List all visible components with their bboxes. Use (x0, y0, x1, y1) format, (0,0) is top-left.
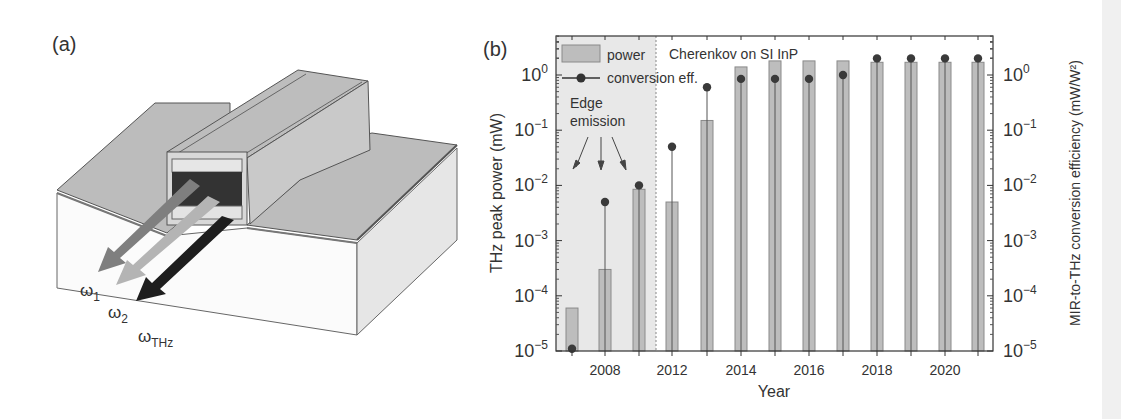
y-tick-label: 100 (521, 62, 548, 85)
y-tick-label: 10−4 (1003, 283, 1037, 306)
legend-conversion-label: conversion eff. (607, 70, 698, 86)
x-tick-label: 2008 (589, 362, 620, 378)
conversion-dot (805, 75, 813, 83)
conversion-dot (668, 143, 676, 151)
y-tick-label: 10−2 (514, 172, 548, 195)
cherenkov-annotation: Cherenkov on SI InP (669, 46, 798, 62)
edge-annotation-line1: Edge (570, 95, 603, 111)
conversion-dot (941, 54, 949, 62)
y-tick-label: 10−5 (514, 338, 548, 361)
y-tick-label: 100 (1003, 62, 1030, 85)
legend-power-label: power (607, 47, 645, 63)
y-axis-title-right: MIR-to-THz conversion efficiency (mW/W²) (1067, 60, 1083, 326)
thz-power-chart: 10010−110−210−310−410−510010−110−210−310… (0, 0, 1121, 419)
x-tick-label: 2014 (725, 362, 756, 378)
legend-dot-icon (577, 74, 586, 83)
conversion-dot (601, 198, 609, 206)
legend-power-swatch (562, 45, 600, 62)
y-tick-label: 10−5 (1003, 338, 1037, 361)
conversion-dot (737, 75, 745, 83)
conversion-dot (907, 54, 915, 62)
conversion-dot (839, 71, 847, 79)
conversion-dot (771, 75, 779, 83)
y-tick-label: 10−3 (1003, 228, 1037, 251)
x-tick-label: 2016 (793, 362, 824, 378)
y-axis-title-left: THz peak power (mW) (488, 113, 505, 273)
y-tick-label: 10−1 (514, 117, 548, 140)
conversion-dot (974, 54, 982, 62)
conversion-dot (873, 54, 881, 62)
y-tick-label: 10−3 (514, 228, 548, 251)
x-tick-label: 2012 (656, 362, 687, 378)
x-tick-label: 2018 (861, 362, 892, 378)
y-tick-label: 10−2 (1003, 172, 1037, 195)
figure: (a) ω1 ω2 ωTHz (0, 0, 1121, 419)
y-tick-label: 10−1 (1003, 117, 1037, 140)
y-tick-label: 10−4 (514, 283, 548, 306)
conversion-dot (635, 181, 643, 189)
x-axis-title: Year (758, 383, 791, 400)
x-tick-label: 2020 (929, 362, 960, 378)
edge-annotation-line2: emission (570, 113, 625, 129)
conversion-dot (703, 83, 711, 91)
